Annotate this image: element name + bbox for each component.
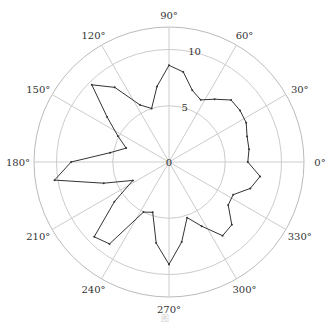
data-point [156, 85, 158, 87]
r-tick-label: 10 [188, 46, 201, 57]
data-point [200, 99, 202, 101]
data-point [151, 108, 153, 110]
r-tick-label: 5 [182, 102, 188, 113]
theta-tick-label: 60° [236, 30, 254, 41]
data-point [70, 161, 72, 163]
theta-tick-label: 210° [26, 231, 50, 242]
data-point [125, 147, 127, 149]
data-point [186, 217, 188, 219]
data-point [117, 135, 119, 137]
data-point [168, 64, 170, 66]
data-point [230, 99, 232, 101]
data-point [91, 84, 93, 86]
data-point [103, 182, 105, 184]
data-point [239, 109, 241, 111]
theta-tick-label: 30° [291, 84, 309, 95]
data-point [168, 263, 170, 265]
data-point [246, 136, 248, 138]
data-point [109, 152, 111, 154]
data-point [247, 161, 249, 163]
theta-gridline-210 [52, 162, 169, 230]
data-series [54, 64, 262, 265]
theta-gridline-300 [169, 162, 237, 279]
data-point [181, 241, 183, 243]
data-point [142, 211, 144, 213]
data-point [201, 225, 203, 227]
theta-tick-label: 240° [81, 284, 105, 295]
r-tick-label: 0 [166, 157, 172, 168]
data-point [222, 235, 224, 237]
theta-tick-label: 150° [26, 84, 50, 95]
data-point [191, 89, 193, 91]
theta-gridline-60 [169, 45, 237, 162]
data-point [108, 243, 110, 245]
data-point [248, 148, 250, 150]
data-point [182, 71, 184, 73]
series-line [55, 65, 261, 264]
data-point [152, 211, 154, 213]
data-point [54, 179, 56, 181]
data-point [114, 86, 116, 88]
data-point [139, 104, 141, 106]
data-point [113, 201, 115, 203]
data-point [93, 236, 95, 238]
data-point [249, 187, 251, 189]
theta-tick-label: 330° [288, 231, 312, 242]
theta-tick-label: 120° [81, 30, 105, 41]
data-point [227, 204, 229, 206]
theta-tick-label: 300° [232, 284, 256, 295]
data-point [214, 98, 216, 100]
data-point [245, 122, 247, 124]
data-point [132, 179, 134, 181]
theta-tick-label: 90° [160, 10, 178, 21]
data-point [106, 116, 108, 118]
theta-tick-label: 0° [314, 157, 325, 168]
data-point [232, 194, 234, 196]
data-point [231, 224, 233, 226]
figure-caption: 图 [0, 312, 330, 323]
theta-tick-label: 180° [6, 157, 30, 168]
data-point [155, 242, 157, 244]
data-point [259, 175, 261, 177]
theta-gridline-120 [102, 45, 170, 162]
